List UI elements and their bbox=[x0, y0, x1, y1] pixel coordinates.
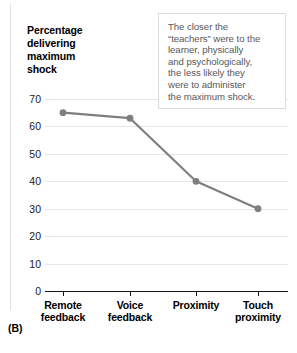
annotation-line-2: “teachers” were to the bbox=[168, 33, 277, 45]
x-axis-label-voice-feedback: Voice feedback bbox=[93, 299, 167, 323]
annotation-line-1: The closer the bbox=[168, 21, 277, 33]
data-point-voice-feedback bbox=[127, 115, 134, 122]
x-axis-label-remote-feedback-line-2: feedback bbox=[26, 311, 100, 323]
x-tick-touch-proximity bbox=[258, 292, 259, 296]
annotation-line-5: the less likely they bbox=[168, 67, 277, 79]
x-axis-label-remote-feedback-line-1: Remote bbox=[26, 299, 100, 311]
x-axis-label-voice-feedback-line-2: feedback bbox=[93, 311, 167, 323]
data-point-proximity bbox=[193, 178, 200, 185]
x-axis-line bbox=[45, 291, 288, 292]
x-axis-label-touch-proximity-line-2: proximity bbox=[221, 311, 295, 323]
panel-label: (B) bbox=[8, 322, 23, 334]
x-axis-label-touch-proximity-line-1: Touch bbox=[221, 299, 295, 311]
x-tick-proximity bbox=[196, 292, 197, 296]
figure-panel-b: Percentage delivering maximum shock 70 6… bbox=[0, 0, 297, 353]
annotation-line-4: and psychologically, bbox=[168, 56, 277, 68]
x-tick-remote-feedback bbox=[63, 292, 64, 296]
data-point-touch-proximity bbox=[255, 205, 262, 212]
series-line bbox=[63, 113, 258, 209]
annotation-line-7: the maximum shock. bbox=[168, 91, 277, 103]
x-axis-label-touch-proximity: Touch proximity bbox=[221, 299, 295, 323]
annotation-callout: The closer the “teachers” were to the le… bbox=[158, 13, 286, 109]
x-axis-label-voice-feedback-line-1: Voice bbox=[93, 299, 167, 311]
x-tick-voice-feedback bbox=[130, 292, 131, 296]
annotation-line-3: learner, physically bbox=[168, 44, 277, 56]
annotation-line-6: were to administer bbox=[168, 79, 277, 91]
data-point-remote-feedback bbox=[60, 109, 67, 116]
x-axis-label-remote-feedback: Remote feedback bbox=[26, 299, 100, 323]
